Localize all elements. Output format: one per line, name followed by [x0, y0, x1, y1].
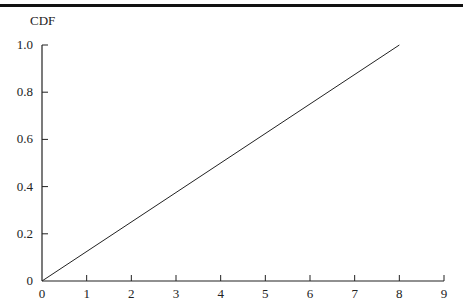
y-tick-label: 0.2 [17, 226, 33, 241]
cdf-line [42, 45, 399, 281]
cdf-chart: 012345678900.20.40.60.81.0CDF [0, 0, 463, 305]
x-tick-label: 0 [39, 286, 46, 301]
y-tick-label: 0 [27, 273, 34, 288]
x-tick-label: 9 [441, 286, 448, 301]
x-tick-label: 4 [217, 286, 224, 301]
x-tick-label: 6 [307, 286, 314, 301]
x-tick-label: 8 [396, 286, 403, 301]
y-tick-label: 0.6 [17, 131, 34, 146]
y-axis-label: CDF [30, 13, 55, 28]
y-tick-label: 0.4 [17, 179, 34, 194]
x-tick-label: 5 [262, 286, 269, 301]
x-tick-label: 2 [128, 286, 135, 301]
x-tick-label: 1 [83, 286, 90, 301]
x-tick-label: 7 [351, 286, 358, 301]
x-tick-label: 3 [173, 286, 180, 301]
y-tick-label: 1.0 [17, 37, 33, 52]
y-tick-label: 0.8 [17, 84, 33, 99]
